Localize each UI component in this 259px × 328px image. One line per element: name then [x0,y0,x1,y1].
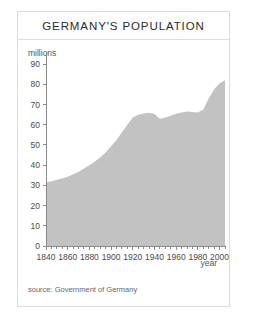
source-note: source: Government of Germany [28,285,137,294]
x-tick-label: 1940 [145,252,164,262]
page-title: GERMANY'S POPULATION [42,20,204,32]
x-tick-label: 1840 [37,252,56,262]
x-axis-label: year [200,258,217,268]
y-tick-label: 10 [31,221,41,231]
screenshot-root: GERMANY'S POPULATION millions 0102030405… [0,0,259,328]
y-tick-label-group: 0102030405060708090 [31,59,41,251]
x-tick-label: 1960 [167,252,186,262]
population-area-path [46,80,225,246]
area-series-group [46,80,225,246]
x-tick-label: 1880 [80,252,99,262]
x-tick-label: 1920 [123,252,142,262]
y-tick-label: 70 [31,100,41,110]
y-tick-label: 60 [31,120,41,130]
x-tick-label: 1860 [58,252,77,262]
y-tick-label: 40 [31,160,41,170]
y-tick-label: 80 [31,79,41,89]
y-tick-label: 20 [31,201,41,211]
y-tick-label: 90 [31,59,41,69]
plot-area: 0102030405060708090 18401860188019001920… [18,40,231,280]
y-tick-label: 50 [31,140,41,150]
y-tick-label: 30 [31,180,41,190]
x-tick-label: 1900 [102,252,121,262]
chart-title-bar: GERMANY'S POPULATION [18,12,229,40]
y-tick-label: 0 [35,241,40,251]
chart-card: GERMANY'S POPULATION millions 0102030405… [17,11,230,307]
area-chart-svg: 0102030405060708090 18401860188019001920… [18,40,231,280]
